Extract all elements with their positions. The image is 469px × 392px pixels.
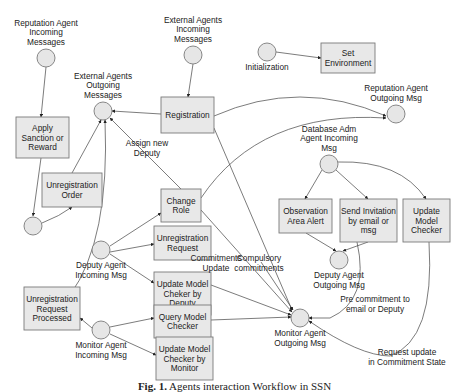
- place-database-adm-incoming: Database AdmAgent IncomingMsg: [300, 124, 358, 173]
- place-deputy-agent-outgoing: Deputy AgentOutgoing Msg: [313, 251, 365, 290]
- edge-label-assign-new-deputy: Assign newDeputy: [126, 138, 169, 158]
- place-unregistration-buffer: [24, 217, 42, 235]
- arc-arrow: [305, 170, 322, 199]
- edge-label-text: Assign new: [126, 138, 169, 148]
- edge-label-text: in Commitment State: [368, 357, 446, 367]
- transition-label: Unregistration: [157, 233, 209, 243]
- transition-apply-sanction: ApplySanction orReward: [16, 117, 69, 158]
- transition-label: Registration: [165, 110, 210, 120]
- place-label: Initialization: [245, 62, 289, 72]
- place-label: Messages: [174, 34, 212, 44]
- place-label: Incoming Msg: [75, 270, 127, 280]
- transition-label: Unregistration: [46, 180, 98, 190]
- transition-label: Send Invitation: [341, 206, 396, 216]
- edge-label-text: commitments: [234, 263, 283, 273]
- transition-update-model-monitor: Update ModelChecker byMonitor: [156, 337, 213, 380]
- transition-label: Request: [167, 243, 199, 253]
- arc-arrow: [276, 52, 321, 58]
- place-label: Incoming: [29, 27, 63, 37]
- transition-label: Monitor: [171, 363, 199, 373]
- arc-arrow: [42, 207, 72, 223]
- transition-label: Sanction or: [22, 133, 64, 143]
- place-label: Incoming: [176, 24, 210, 34]
- transition-unregistration-processed: UnregistrationRequestProcessed: [24, 287, 80, 330]
- place-label: Monitor Agent: [274, 328, 326, 338]
- arc-arrow: [211, 317, 291, 320]
- arc-arrow: [112, 111, 161, 114]
- edge-label-request-update: Request updatein Commitment State: [368, 347, 446, 367]
- place-label: Reputation Agent: [14, 18, 78, 28]
- edge-label-text: Deputy: [134, 148, 161, 158]
- transition-change-role: ChangeRole: [161, 189, 201, 222]
- arc-arrow: [80, 318, 92, 328]
- place-external-agents-incoming: External AgentsIncomingMessages: [164, 15, 222, 64]
- edge-label-pre-commitment: Pre commitment toemail or Deputy: [340, 294, 410, 314]
- edge-label-text: Update: [203, 263, 230, 273]
- transition-label: Model: [415, 216, 438, 226]
- place-label: Monitor Agent: [75, 340, 127, 350]
- arc-arrow: [110, 318, 154, 327]
- place-deputy-agent-incoming: Deputy AgentIncoming Msg: [75, 241, 127, 280]
- edge-label-text: Compulsory: [237, 253, 282, 263]
- arc-arrow: [188, 64, 193, 97]
- transition-label: Update Model: [157, 279, 209, 289]
- place-label: Messages: [84, 90, 122, 100]
- transition-label: Reward: [28, 142, 57, 152]
- place-external-agents-outgoing: External AgentsOutgoingMessages: [74, 71, 132, 120]
- transition-registration: Registration: [161, 97, 214, 133]
- transition-set-environment: SetEnvironment: [321, 43, 375, 73]
- place-reputation-agent-incoming: Reputation AgentIncomingMessages: [14, 18, 78, 67]
- transition-label: Order: [61, 190, 82, 200]
- arc-arrow: [338, 162, 426, 199]
- place-label: Outgoing Msg: [370, 93, 422, 103]
- transition-label: Set: [342, 48, 355, 58]
- arc-arrow: [33, 158, 41, 216]
- arc-arrow: [72, 120, 101, 173]
- caption-prefix: Fig. 1.: [138, 380, 167, 392]
- transition-label: Request: [37, 304, 69, 314]
- arc-arrow: [201, 117, 386, 198]
- transition-label: Environment: [325, 58, 372, 68]
- place-label: Outgoing: [86, 80, 120, 90]
- arc-arrow: [110, 213, 161, 246]
- caption-text: Agents interaction Workflow in SSN: [167, 380, 331, 392]
- place-label: Deputy Agent: [76, 260, 127, 270]
- arc-arrow: [306, 233, 336, 251]
- edge-label-text: Pre commitment to: [340, 294, 410, 304]
- place-label: External Agents: [74, 71, 132, 81]
- place-label: Deputy Agent: [314, 270, 365, 280]
- arc-arrow: [336, 170, 368, 199]
- transition-label: Checker by: [164, 354, 207, 364]
- place-label: Database Adm: [302, 124, 357, 134]
- transition-label: Role: [172, 205, 189, 215]
- place-label: Reputation Agent: [364, 83, 428, 93]
- place-monitor-agent-incoming: Monitor AgentIncoming Msg: [75, 321, 127, 360]
- transition-label: by email or: [348, 216, 389, 226]
- place-label: Messages: [27, 37, 65, 47]
- transition-query-model-checker: Query ModelChecker: [154, 305, 211, 338]
- transition-observation-area-alert: ObservationArea Alert: [279, 199, 332, 233]
- transition-label: Checker: [167, 321, 198, 331]
- arc-arrow: [214, 97, 386, 116]
- transition-label: Unregistration: [26, 294, 78, 304]
- place-label: Incoming Msg: [75, 350, 127, 360]
- transition-update-model-checker: UpdateModelChecker: [403, 199, 450, 242]
- place-initialization: Initialization: [245, 43, 289, 72]
- place-reputation-agent-outgoing: Reputation AgentOutgoing Msg: [364, 83, 428, 123]
- transition-label: Update: [413, 206, 440, 216]
- place-label: Msg: [321, 143, 337, 153]
- transition-label: Processed: [32, 313, 72, 323]
- arc-arrow: [110, 244, 154, 252]
- transition-label: msg: [361, 225, 377, 235]
- transition-label: Cheker by: [164, 289, 203, 299]
- place-label: Agent Incoming: [300, 133, 358, 143]
- edge-label-text: Commitments: [190, 253, 241, 263]
- arc-arrow: [343, 242, 368, 251]
- place-label: Outgoing Msg: [313, 280, 365, 290]
- place-label: External Agents: [164, 15, 222, 25]
- transition-unregistration-order: UnregistrationOrder: [42, 173, 102, 207]
- edge-label-compulsory-commitments: Compulsorycommitments: [234, 253, 283, 273]
- transition-label: Apply: [32, 123, 54, 133]
- arc-arrow: [41, 67, 46, 117]
- transition-label: Update Model: [159, 344, 211, 354]
